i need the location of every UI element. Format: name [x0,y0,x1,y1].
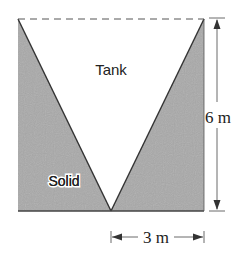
tank-diagram: 6 m 3 m Tank Solid Solid [0,0,252,254]
arrow-down-icon [214,200,221,210]
arrow-left-icon [112,234,122,241]
height-label: 6 m [205,108,231,127]
solid-label-text: Solid [48,173,79,189]
arrow-right-icon [193,234,203,241]
half-width-label: 3 m [143,228,169,247]
arrow-up-icon [214,19,221,29]
tank-label: Tank [95,61,127,78]
